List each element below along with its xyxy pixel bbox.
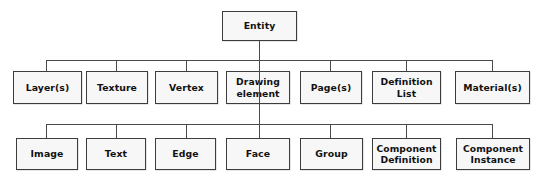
node-layers[interactable]: Layer(s)	[13, 71, 82, 104]
connector-drop-text	[116, 124, 117, 138]
connector-drop-component-definition	[406, 124, 407, 138]
node-texture[interactable]: Texture	[86, 71, 148, 104]
connector-drop-pages	[330, 60, 331, 71]
connector-level3-bus	[46, 124, 492, 125]
node-pages[interactable]: Page(s)	[300, 71, 362, 104]
node-image[interactable]: Image	[16, 138, 78, 170]
connector-root-stem	[259, 40, 260, 61]
connector-drop-materials	[492, 60, 493, 71]
entity-hierarchy-diagram: Entity Layer(s) Texture Vertex Drawing e…	[0, 0, 541, 184]
node-edge[interactable]: Edge	[155, 138, 216, 170]
connector-drop-group	[330, 124, 331, 138]
connector-drop-vertex	[186, 60, 187, 71]
connector-drop-face	[259, 124, 260, 138]
node-materials[interactable]: Material(s)	[455, 71, 530, 104]
connector-drop-edge	[186, 124, 187, 138]
node-component-instance[interactable]: Component Instance	[456, 138, 530, 170]
connector-drop-drawing-element	[259, 60, 260, 71]
node-vertex[interactable]: Vertex	[155, 71, 218, 104]
connector-drop-texture	[116, 60, 117, 71]
node-group[interactable]: Group	[300, 138, 363, 170]
node-entity[interactable]: Entity	[222, 11, 297, 41]
node-text[interactable]: Text	[86, 138, 146, 170]
connector-drawing-element-stem	[259, 71, 260, 125]
connector-drop-layers	[46, 60, 47, 71]
connector-level2-bus	[46, 60, 492, 61]
node-definition-list[interactable]: Definition List	[372, 71, 441, 104]
connector-drop-component-instance	[492, 124, 493, 138]
connector-drop-definition-list	[406, 60, 407, 71]
node-component-definition[interactable]: Component Definition	[372, 138, 441, 170]
node-face[interactable]: Face	[226, 138, 290, 170]
connector-drop-image	[46, 124, 47, 138]
